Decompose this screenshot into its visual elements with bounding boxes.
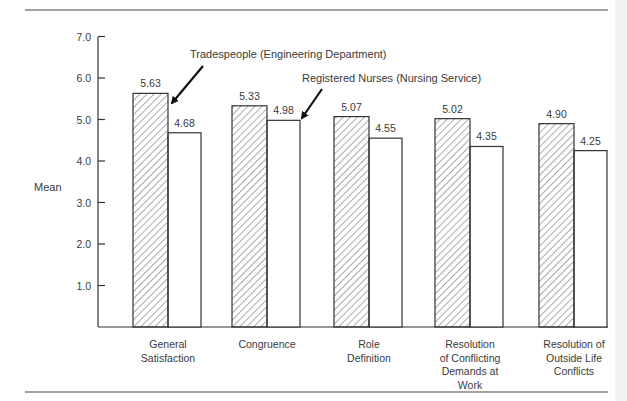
category-label: Work [458,379,483,391]
bar-value-label: 4.55 [375,122,396,134]
y-tick-label: 5.0 [76,114,91,126]
category-label: of Conflicting [440,352,501,364]
bar-nurses [168,133,201,327]
bar-tradespeople [334,117,369,327]
y-tick-label: 2.0 [76,238,91,250]
bar-value-label: 4.68 [174,117,195,129]
bar-tradespeople [232,106,267,327]
category-label: General [149,338,186,350]
bar-nurses [470,146,503,327]
category-label: Resolution of [543,338,604,350]
category-label: Demands at [442,365,499,377]
category-label: Conflicts [554,365,594,377]
bar-tradespeople [133,93,168,327]
category-label: Outside Life [546,352,602,364]
y-tick-label: 6.0 [76,72,91,84]
bar-value-label: 4.25 [580,135,601,147]
annotation-nurses-text: Registered Nurses (Nursing Service) [302,72,481,84]
bar-tradespeople [539,124,574,327]
bar-value-label: 4.90 [546,108,567,120]
bar-value-label: 5.02 [442,103,463,115]
bar-nurses [267,120,300,327]
y-axis-label: Mean [34,181,62,193]
annotation-tradespeople-text: Tradespeople (Engineering Department) [190,48,386,60]
bar-value-label: 4.35 [476,130,497,142]
y-axis-ticks: 1.02.03.04.05.06.07.0 [76,31,105,292]
y-tick-label: 1.0 [76,280,91,292]
bars: 5.634.685.334.985.074.555.024.354.904.25 [133,77,607,327]
y-tick-label: 3.0 [76,197,91,209]
bar-chart: 1.02.03.04.05.06.07.0 Mean 5.634.685.334… [0,0,627,401]
bar-nurses [369,138,402,327]
y-tick-label: 7.0 [76,31,91,43]
x-axis-labels: GeneralSatisfactionCongruenceRoleDefinit… [141,338,605,391]
bar-value-label: 4.98 [273,104,294,116]
category-label: Role [358,338,380,350]
bar-value-label: 5.63 [140,77,161,89]
arrow-icon [302,89,322,118]
category-label: Resolution [445,338,495,350]
bar-value-label: 5.07 [341,101,362,113]
arrow-icon [172,66,203,103]
category-label: Congruence [238,338,295,350]
bar-nurses [574,151,607,327]
category-label: Definition [347,352,391,364]
category-label: Satisfaction [141,352,195,364]
bar-value-label: 5.33 [239,90,260,102]
bar-tradespeople [435,119,470,327]
y-tick-label: 4.0 [76,155,91,167]
